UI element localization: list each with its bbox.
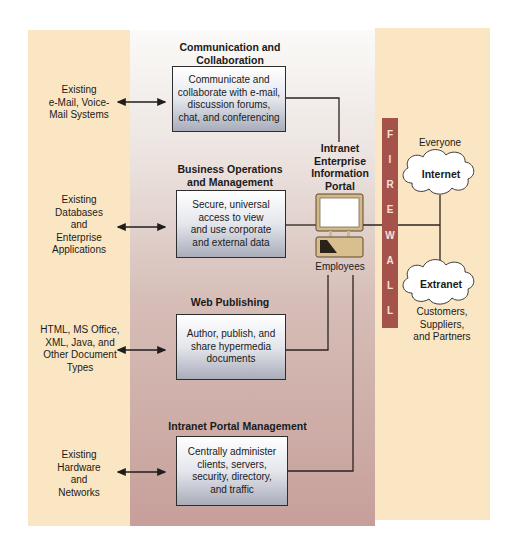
communication-collaboration-box: Communicate and collaborate with e-mail,…: [172, 66, 286, 132]
label-line: Mail Systems: [32, 109, 126, 122]
box-line: chat, and conferencing: [178, 112, 280, 125]
box-line: Centrally administer: [188, 446, 276, 459]
portal-management-heading: Intranet Portal Management: [150, 420, 325, 433]
portal-title: Intranet Enterprise Information Portal: [300, 142, 380, 192]
label-line: and: [32, 474, 126, 487]
label-line: Hardware: [32, 462, 126, 475]
label-line: Networks: [32, 487, 126, 500]
heading-line: and Management: [160, 176, 300, 189]
business-operations-box: Secure, universal access to view and use…: [176, 190, 286, 258]
box-line: discussion forums,: [178, 99, 280, 112]
firewall-letter: R: [386, 179, 393, 191]
business-operations-heading: Business Operations and Management: [160, 163, 300, 188]
label-line: Applications: [32, 244, 126, 257]
label-line: Types: [30, 362, 130, 375]
communication-collaboration-heading: Communication and Collaboration: [160, 41, 300, 66]
box-line: clients, servers,: [188, 459, 276, 472]
box-line: and external data: [191, 237, 272, 250]
box-line: and traffic: [188, 484, 276, 497]
label-line: Enterprise: [32, 232, 126, 245]
box-line: share hypermedia: [187, 341, 275, 354]
extranet-label: Extranet: [413, 278, 469, 290]
firewall-letter: F: [387, 129, 393, 141]
box-line: documents: [187, 353, 275, 366]
box-line: and use corporate: [191, 224, 272, 237]
firewall-letter: A: [386, 255, 393, 267]
box-line: Communicate and: [178, 74, 280, 87]
existing-hardware-label: Existing Hardware and Networks: [32, 449, 126, 499]
label-line: XML, Java, and: [30, 337, 130, 350]
employees-label: Employees: [310, 261, 370, 274]
box-line: Author, publish, and: [187, 328, 275, 341]
web-publishing-heading: Web Publishing: [160, 296, 300, 309]
label-line: Existing: [32, 84, 126, 97]
heading-line: Intranet Portal Management: [150, 420, 325, 433]
heading-line: Web Publishing: [160, 296, 300, 309]
audience-line: Customers,: [400, 306, 484, 319]
firewall-letter: L: [387, 280, 393, 292]
document-types-label: HTML, MS Office, XML, Java, and Other Do…: [30, 324, 130, 374]
portal-title-line: Intranet: [300, 142, 380, 155]
label-line: and: [32, 219, 126, 232]
internet-label: Internet: [413, 168, 469, 180]
web-publishing-box: Author, publish, and share hypermedia do…: [176, 314, 286, 380]
firewall-bar: F I R E W A L L: [382, 118, 398, 328]
heading-line: Business Operations: [160, 163, 300, 176]
label-line: HTML, MS Office,: [30, 324, 130, 337]
firewall-letter: L: [387, 305, 393, 317]
existing-databases-label: Existing Databases and Enterprise Applic…: [32, 194, 126, 257]
label-line: e-Mail, Voice-: [32, 97, 126, 110]
box-line: collaborate with e-mail,: [178, 87, 280, 100]
heading-line: Collaboration: [160, 54, 300, 67]
computer-terminal-icon: [316, 194, 363, 257]
portal-title-line: Information: [300, 167, 380, 180]
label-line: Existing: [32, 194, 126, 207]
extranet-audience-label: Customers, Suppliers, and Partners: [400, 306, 484, 344]
everyone-label: Everyone: [405, 137, 475, 150]
existing-email-voicemail-label: Existing e-Mail, Voice- Mail Systems: [32, 84, 126, 122]
audience-line: and Partners: [400, 331, 484, 344]
firewall-letter: E: [387, 204, 394, 216]
label-line: Other Document: [30, 349, 130, 362]
box-line: security, directory,: [188, 471, 276, 484]
firewall-letter: I: [389, 154, 392, 166]
portal-management-box: Centrally administer clients, servers, s…: [176, 436, 288, 506]
heading-line: Communication and: [160, 41, 300, 54]
firewall-letter: W: [385, 230, 394, 242]
portal-title-line: Portal: [300, 180, 380, 193]
audience-line: Suppliers,: [400, 319, 484, 332]
portal-title-line: Enterprise: [300, 155, 380, 168]
box-line: Secure, universal: [191, 199, 272, 212]
box-line: access to view: [191, 212, 272, 225]
label-line: Existing: [32, 449, 126, 462]
label-line: Databases: [32, 207, 126, 220]
